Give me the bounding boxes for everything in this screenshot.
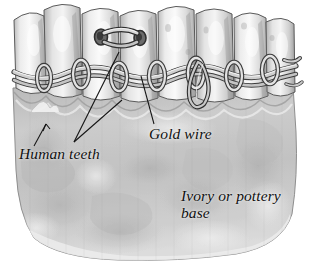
- ivory-or-pottery-base-shape: [12, 86, 297, 263]
- label-base-line-2: base: [181, 204, 210, 221]
- label-base-line-1: Ivory or pottery: [181, 187, 281, 204]
- label-gold-wire: Gold wire: [149, 126, 212, 143]
- dental-prosthesis-illustration: Human teeth Gold wire Ivory or potteryba…: [0, 0, 309, 270]
- label-human-teeth: Human teeth: [19, 146, 100, 163]
- label-ivory-or-pottery-base: Ivory or potterybase: [181, 188, 281, 221]
